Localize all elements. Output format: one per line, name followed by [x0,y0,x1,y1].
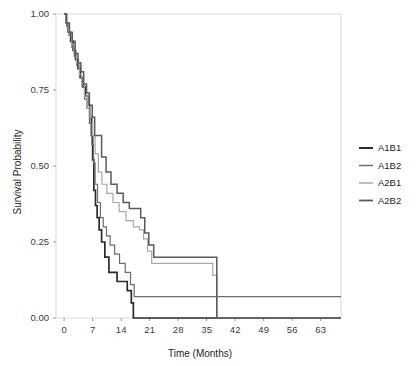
survival-plot-figure: 0.000.250.500.751.00 071421283542495663 … [0,0,418,366]
x-axis-title: Time (Months) [168,348,232,359]
x-tick-label: 7 [90,324,95,335]
survival-curve-a2b2 [64,14,341,318]
x-tick-label: 14 [116,324,127,335]
y-tick-label: 0.50 [31,160,50,171]
x-tick-label: 21 [144,324,155,335]
x-tick-label: 42 [230,324,241,335]
y-tick-label: 0.25 [31,236,50,247]
y-axis-title: Survival Probability [12,129,23,214]
x-axis: 071421283542495663 [61,318,325,335]
chart-legend: A1B1A1B2A2B1A2B2 [359,142,401,206]
legend-label-a1b2: A1B2 [378,160,401,171]
x-tick-label: 28 [173,324,184,335]
legend-label-a1b1: A1B1 [378,142,401,153]
x-tick-label: 49 [258,324,269,335]
y-axis: 0.000.250.500.751.00 [31,8,57,323]
y-tick-label: 1.00 [31,8,50,19]
legend-label-a2b2: A2B2 [378,195,401,206]
x-tick-label: 35 [201,324,212,335]
x-tick-label: 56 [287,324,298,335]
x-tick-label: 0 [61,324,66,335]
legend-label-a2b1: A2B1 [378,177,401,188]
survival-curves [64,14,341,318]
x-tick-label: 63 [315,324,326,335]
kaplan-meier-chart: 0.000.250.500.751.00 071421283542495663 … [0,0,418,366]
y-tick-label: 0.75 [31,84,50,95]
y-tick-label: 0.00 [31,312,50,323]
